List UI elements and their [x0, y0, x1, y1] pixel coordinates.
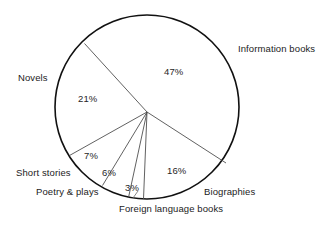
slice-label-poetry-and-plays: Poetry & plays	[36, 186, 99, 197]
slice-value-foreign-language-books: 3%	[125, 182, 139, 193]
slice-label-novels: Novels	[18, 72, 48, 83]
slice-label-information-books: Information books	[238, 43, 315, 54]
pie-chart: 47% 21% 7% 6% 3% 16% Information books N…	[0, 0, 333, 227]
pie-outline	[55, 15, 239, 199]
slice-label-biographies: Biographies	[204, 186, 255, 197]
slice-value-biographies: 16%	[167, 165, 186, 176]
slice-value-novels: 21%	[78, 93, 97, 104]
slice-value-short-stories: 7%	[84, 150, 98, 161]
slice-value-poetry-and-plays: 6%	[102, 167, 116, 178]
slice-label-short-stories: Short stories	[16, 167, 71, 178]
slice-value-information-books: 47%	[164, 66, 183, 77]
slice-label-foreign-language-books: Foreign language books	[119, 203, 223, 214]
